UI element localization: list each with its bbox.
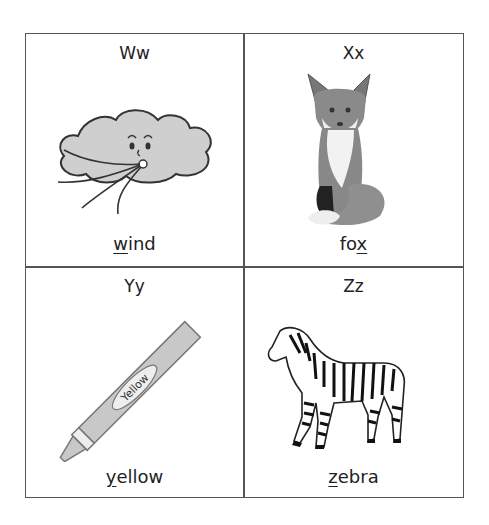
crayon-icon: Yellow <box>26 302 243 462</box>
word-label: zebra <box>244 466 463 487</box>
cell-y: Yy Yellow yellow <box>26 267 243 499</box>
cell-z: Zz zebra <box>244 267 463 499</box>
word-highlight: y <box>106 466 117 487</box>
letter-heading: Xx <box>244 43 463 63</box>
wind-cloud-icon <box>26 84 243 214</box>
word-highlight: z <box>328 466 337 487</box>
cell-x: Xx fox <box>244 34 463 266</box>
word-highlight: x <box>357 233 368 254</box>
word-label: yellow <box>26 466 243 487</box>
cell-w: Ww wind <box>26 34 243 266</box>
letter-heading: Zz <box>244 276 463 296</box>
word-label: fox <box>244 233 463 254</box>
letter-heading: Ww <box>26 43 243 63</box>
word-highlight: w <box>113 233 128 254</box>
alphabet-grid: Ww wind Xx <box>25 33 464 498</box>
fox-icon <box>244 66 463 231</box>
word-label: wind <box>26 233 243 254</box>
letter-heading: Yy <box>26 276 243 296</box>
zebra-icon <box>244 317 463 462</box>
